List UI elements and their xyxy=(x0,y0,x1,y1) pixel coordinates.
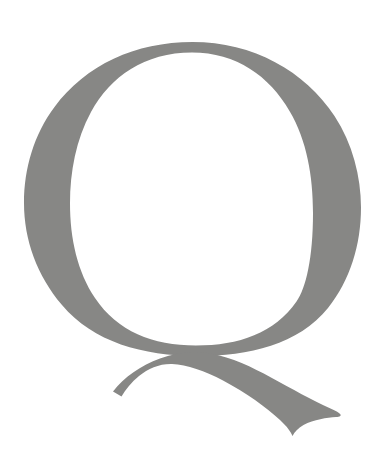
glyph-canvas: Q Q xyxy=(0,0,390,458)
letter-q-glyph: Q xyxy=(0,0,390,458)
